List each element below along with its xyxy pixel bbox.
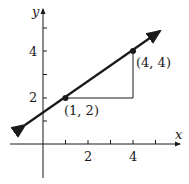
point-4-4 [130,48,136,54]
graph-figure: y x 2 4 2 4 (1, 2) (4, 4) [0,0,189,184]
y-tick-label-4: 4 [29,45,37,58]
point-label-4-4: (4, 4) [136,56,171,69]
y-tick-label-2: 2 [29,91,37,104]
x-ticks [66,140,156,144]
point-label-1-2: (1, 2) [64,104,99,117]
x-axis-label: x [175,128,182,141]
y-axis-label: y [32,5,39,18]
x-tick-label-4: 4 [129,150,137,163]
x-tick-label-2: 2 [84,150,92,163]
y-ticks [43,28,47,121]
point-1-2 [63,95,69,101]
